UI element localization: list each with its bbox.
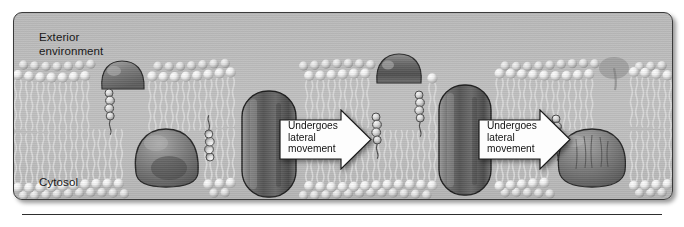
peripheral-protein-far-right [599, 57, 629, 90]
membrane-figure: Exterior environment Cytosol Undergoes l… [0, 0, 684, 227]
peripheral-protein-upper-right [377, 54, 421, 83]
lateral-movement-arrow-1-text: Undergoes lateral movement [288, 120, 354, 155]
lateral-movement-arrow-2: Undergoes lateral movement [478, 109, 571, 170]
cytosol-label: Cytosol [39, 176, 78, 190]
integral-protein-left [135, 129, 198, 187]
membrane-panel: Exterior environment Cytosol Undergoes l… [13, 12, 673, 200]
lateral-movement-arrow-1: Undergoes lateral movement [279, 109, 372, 170]
exterior-environment-label: Exterior environment [39, 31, 103, 58]
phospholipid-bilayer [14, 13, 672, 199]
lateral-movement-arrow-2-text: Undergoes lateral movement [487, 120, 553, 155]
peripheral-protein-left [102, 61, 144, 89]
figure-separator-rule [22, 214, 662, 215]
